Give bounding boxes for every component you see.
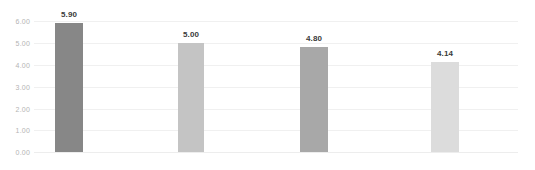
bar-label-3: 4.14 [437,50,453,58]
gridline-6 [34,21,518,22]
bar-label-1: 5.00 [183,31,199,39]
gridline-0-baseline [34,152,518,153]
bar-3[interactable] [431,62,459,152]
y-axis-tick-0: 0.00 [4,149,30,156]
y-axis-tick-5: 5.00 [4,40,30,47]
y-axis-tick-1: 1.00 [4,127,30,134]
bar-2[interactable] [300,47,328,152]
gridline-5 [34,43,518,44]
y-axis-tick-4: 4.00 [4,62,30,69]
y-axis-tick-6: 6.00 [4,18,30,25]
bar-0[interactable] [55,23,83,152]
bar-1[interactable] [178,43,204,152]
bar-label-2: 4.80 [306,35,322,43]
plot-area: 6.00 5.00 4.00 3.00 2.00 1.00 0.00 5.90 … [0,0,535,170]
y-axis-tick-2: 2.00 [4,106,30,113]
y-axis-tick-3: 3.00 [4,84,30,91]
bar-chart: 6.00 5.00 4.00 3.00 2.00 1.00 0.00 5.90 … [0,0,535,170]
bar-label-0: 5.90 [61,11,77,19]
